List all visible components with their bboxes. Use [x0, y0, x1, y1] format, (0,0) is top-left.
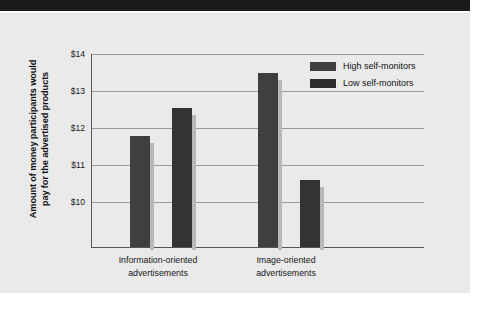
bar-shadow — [150, 143, 154, 250]
category-label-line-1: Information-oriented — [88, 254, 228, 267]
legend-item-low-self-monitors[interactable]: Low self-monitors — [310, 78, 416, 88]
y-tick-label-12: $12 — [71, 123, 85, 133]
bar-body — [258, 73, 278, 247]
y-axis-title-line-1: Amount of money participants would — [27, 60, 39, 218]
legend-label-low: Low self-monitors — [343, 78, 414, 88]
y-tick-label-10: $10 — [71, 197, 85, 207]
chart-panel: Amount of money participants would pay f… — [0, 13, 470, 293]
bar-shadow — [278, 80, 282, 250]
category-label-line-1: Image-oriented — [216, 254, 356, 267]
bar-body — [300, 180, 320, 247]
x-category-label-information: Information-oriented advertisements — [88, 254, 228, 279]
bar-body — [172, 108, 192, 247]
x-axis-line — [91, 247, 424, 248]
bar-shadow — [320, 187, 324, 250]
category-label-line-2: advertisements — [88, 267, 228, 280]
y-tick-label-11: $11 — [71, 160, 85, 170]
legend-item-high-self-monitors[interactable]: High self-monitors — [310, 61, 416, 71]
top-banner — [0, 0, 470, 11]
chart-legend: High self-monitors Low self-monitors — [310, 61, 416, 88]
bar-body — [130, 136, 150, 247]
legend-swatch-icon-high — [310, 62, 336, 71]
figure-container: Amount of money participants would pay f… — [0, 0, 497, 313]
y-axis-title: Amount of money participants would pay f… — [22, 34, 56, 244]
y-axis-title-line-2: pay for the advertised products — [39, 72, 51, 206]
y-axis-line — [91, 54, 92, 248]
y-tick-label-14: $14 — [71, 49, 85, 59]
bar-shadow — [192, 115, 196, 250]
legend-swatch-icon-low — [310, 79, 336, 88]
y-tick-label-13: $13 — [71, 86, 85, 96]
legend-label-high: High self-monitors — [343, 61, 416, 71]
x-category-label-image: Image-oriented advertisements — [216, 254, 356, 279]
gridline-14: $14 — [91, 54, 424, 55]
category-label-line-2: advertisements — [216, 267, 356, 280]
